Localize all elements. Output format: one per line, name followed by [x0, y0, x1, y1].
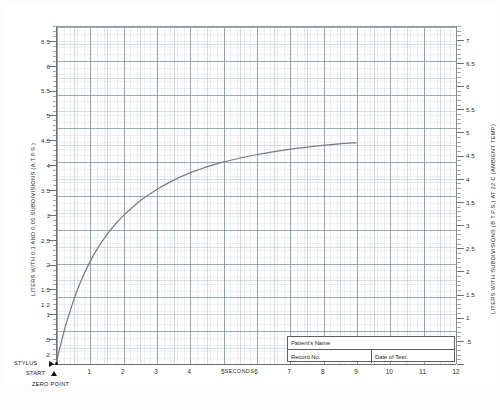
axis-ruler-mark	[457, 267, 461, 268]
y-axis-left-tick-label: 1.5	[24, 286, 50, 293]
x-axis-tick-label: 3	[154, 368, 158, 375]
axis-ruler-mark	[457, 308, 461, 309]
y-axis-left-tick-label: 1	[24, 311, 50, 318]
axis-ruler-mark	[49, 240, 56, 241]
patient-info-box: Patient's Name Record No. Date of Test:	[287, 336, 455, 362]
y-axis-left-tick-label: 5.5	[24, 87, 50, 94]
axis-ruler-mark	[49, 41, 56, 42]
axis-ruler-mark	[457, 248, 464, 249]
axis-ruler-mark	[457, 77, 461, 78]
axis-ruler-mark	[457, 332, 461, 333]
axis-ruler-mark	[457, 318, 464, 319]
date-of-test-field[interactable]: Date of Test:	[372, 350, 456, 363]
y-axis-left-tick-label: 2	[24, 261, 50, 268]
axis-ruler-mark	[49, 265, 56, 266]
y-axis-left-tick-label: 3	[24, 212, 50, 219]
axis-ruler-mark	[49, 190, 56, 191]
axis-ruler-mark	[457, 114, 461, 115]
y-axis-left-tick-label: 4.5	[24, 137, 50, 144]
axis-ruler-mark	[457, 68, 461, 69]
axis-ruler-mark	[457, 91, 461, 92]
axis-ruler-mark	[457, 156, 464, 157]
y-axis-right-tick-label: 7	[466, 37, 492, 44]
axis-ruler-mark	[457, 132, 464, 133]
axis-ruler-mark	[457, 35, 461, 36]
axis-ruler-mark	[457, 313, 461, 314]
x-axis-tick-label: 2	[121, 368, 125, 375]
axis-ruler-mark	[457, 341, 464, 342]
y-axis-left-tick-label: 4	[24, 162, 50, 169]
axis-ruler-mark	[457, 31, 461, 32]
y-axis-left-tick-label: .2	[24, 351, 50, 358]
axis-ruler-mark	[49, 215, 56, 216]
axis-ruler-mark	[457, 100, 461, 101]
axis-ruler-mark	[49, 314, 56, 315]
axis-ruler-mark	[457, 119, 461, 120]
x-axis-tick-label: 12	[452, 368, 459, 375]
axis-ruler-mark	[457, 322, 461, 323]
axis-ruler-mark	[457, 336, 461, 337]
y-axis-left-tick-label: 6	[24, 63, 50, 70]
y-axis-right-tick-label: 3.5	[466, 199, 492, 206]
axis-ruler-mark	[457, 216, 461, 217]
y-axis-right-title: LITERS WITH SUBDIVISIONS (B.T.P.S.) AT 2…	[490, 124, 496, 314]
axis-ruler-mark	[457, 63, 464, 64]
axis-ruler-mark	[457, 197, 461, 198]
axis-ruler-mark	[49, 115, 56, 116]
axis-ruler-mark	[457, 179, 464, 180]
y-axis-right-tick-label: 6.5	[466, 60, 492, 67]
x-axis-line	[56, 364, 456, 365]
axis-ruler-mark	[457, 82, 461, 83]
y-axis-left-title: LITERS WITH 0.1 AND 0.05 SUBDIVISIONS (A…	[30, 143, 36, 296]
patient-info-row-name: Patient's Name	[288, 337, 454, 350]
axis-ruler-mark	[457, 234, 461, 235]
axis-ruler-mark	[457, 54, 461, 55]
x-axis-tick-label: 6	[254, 368, 258, 375]
spirogram-curve	[56, 26, 456, 364]
page-sheet: .2.511.21.522.533.544.555.566.5 .511.522…	[0, 0, 500, 410]
x-axis-tick-label: 9	[354, 368, 358, 375]
axis-ruler-mark	[457, 142, 461, 143]
y-axis-left-tick-label: 5	[24, 112, 50, 119]
stylus-label: STYLUS	[14, 360, 38, 366]
sheet-caption	[6, 392, 226, 402]
axis-ruler-mark	[49, 339, 56, 340]
x-axis-tick-label: 8	[321, 368, 325, 375]
axis-ruler-mark	[457, 290, 461, 291]
axis-ruler-mark	[457, 244, 461, 245]
y-axis-right-tick-label: 2	[466, 268, 492, 275]
axis-ruler-mark	[457, 207, 461, 208]
origin-dot-icon	[55, 362, 58, 365]
axis-ruler-mark	[457, 285, 461, 286]
y-axis-left-tick-label: 3.5	[24, 187, 50, 194]
y-axis-right-ruler	[457, 26, 464, 364]
x-axis-title: SECONDS	[224, 368, 254, 374]
axis-ruler-mark	[457, 327, 461, 328]
axis-ruler-mark	[457, 276, 461, 277]
stylus-arrow-icon	[49, 361, 54, 367]
axis-ruler-mark	[457, 258, 461, 259]
axis-ruler-mark	[457, 271, 464, 272]
axis-ruler-mark	[457, 165, 461, 166]
start-arrow-icon	[51, 371, 57, 376]
axis-ruler-mark	[457, 160, 461, 161]
record-no-field[interactable]: Record No.	[288, 350, 372, 363]
y-axis-left-tick-label: .5	[24, 336, 50, 343]
axis-ruler-mark	[457, 230, 461, 231]
axis-ruler-mark	[49, 289, 56, 290]
axis-ruler-mark	[457, 137, 461, 138]
x-axis-tick-label: 1	[88, 368, 92, 375]
y-axis-right-tick-label: 4.5	[466, 152, 492, 159]
axis-ruler-mark	[49, 91, 56, 92]
axis-ruler-mark	[457, 211, 461, 212]
zero-point-label: ZERO POINT	[32, 381, 69, 387]
axis-ruler-mark	[457, 359, 461, 360]
axis-ruler-mark	[49, 165, 56, 166]
y-axis-right-tick-label: 1.5	[466, 291, 492, 298]
axis-ruler-mark	[457, 364, 464, 365]
y-axis-left-ruler	[49, 26, 56, 364]
axis-ruler-mark	[457, 128, 461, 129]
patient-name-field[interactable]: Patient's Name	[288, 337, 454, 349]
curve-layer	[56, 26, 456, 364]
axis-ruler-mark	[457, 355, 461, 356]
